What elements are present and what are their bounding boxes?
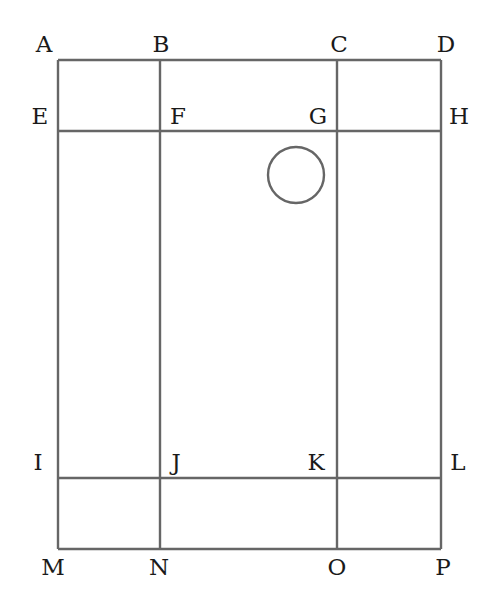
point-label-F: F: [170, 103, 186, 129]
point-label-O: O: [328, 554, 347, 580]
point-label-J: J: [169, 449, 180, 475]
point-label-I: I: [33, 449, 42, 475]
circle-shape: [268, 147, 324, 203]
point-label-M: M: [41, 554, 65, 580]
point-label-N: N: [149, 554, 169, 580]
point-label-L: L: [450, 449, 465, 475]
point-label-E: E: [32, 103, 49, 129]
point-label-P: P: [435, 554, 450, 580]
grid-diagram: A B C D E F G H I J K L M N O P: [0, 0, 496, 609]
point-label-C: C: [330, 31, 348, 57]
point-label-G: G: [309, 103, 327, 129]
point-label-H: H: [449, 103, 469, 129]
point-label-D: D: [437, 31, 455, 57]
point-label-K: K: [307, 449, 325, 475]
point-label-B: B: [153, 31, 170, 57]
point-label-A: A: [35, 31, 53, 57]
